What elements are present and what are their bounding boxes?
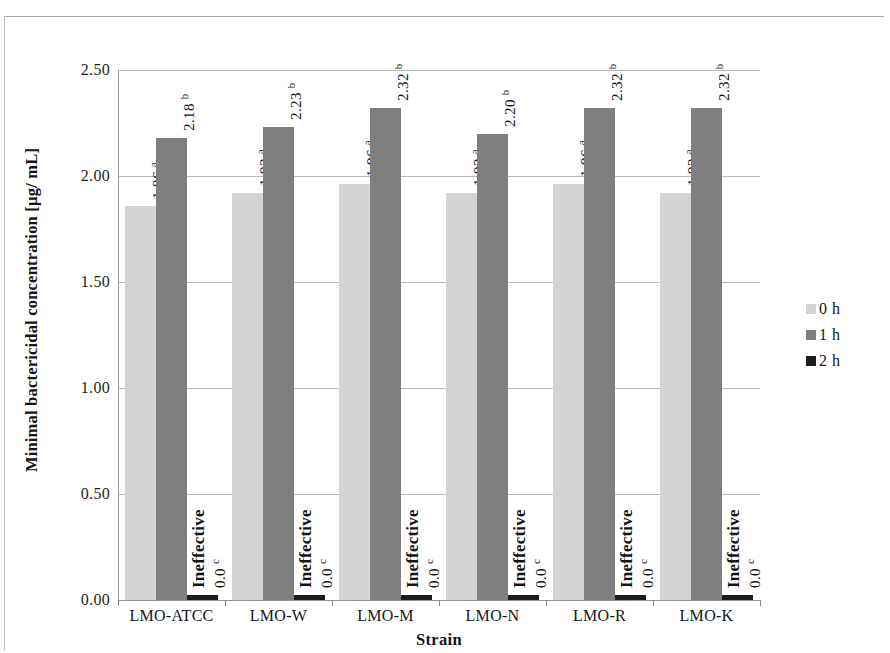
bar[interactable]: 2.32b xyxy=(584,108,615,600)
bar-value-label: 2.32b xyxy=(391,63,411,101)
bar-annotation: Ineffective xyxy=(512,509,527,588)
bar-group: 1.92a2.32b0.0cIneffective xyxy=(653,70,760,600)
bar-set: 1.92a2.23b0.0cIneffective xyxy=(225,70,332,600)
bar[interactable]: 1.96a xyxy=(553,184,584,600)
bar-set: 1.92a2.20b0.0cIneffective xyxy=(439,70,546,600)
x-tick-label: LMO-K xyxy=(653,606,760,632)
x-tick-mark xyxy=(760,600,761,606)
significance-letter: c xyxy=(423,559,435,568)
bar-group: 1.86a2.18b0.0cIneffective xyxy=(118,70,225,600)
bar[interactable]: 1.92a xyxy=(446,193,477,600)
bar-set: 1.96a2.32b0.0cIneffective xyxy=(332,70,439,600)
significance-letter: c xyxy=(744,559,756,568)
significance-letter: b xyxy=(285,82,297,92)
bar-set: 1.92a2.32b0.0cIneffective xyxy=(653,70,760,600)
x-axis-title: Strain xyxy=(118,630,760,650)
bar[interactable]: 1.92a xyxy=(660,193,691,600)
legend-label: 0 h xyxy=(819,301,841,317)
x-tick-label: LMO-ATCC xyxy=(118,606,225,632)
x-tick-label: LMO-N xyxy=(439,606,546,632)
y-tick-label: 0.00 xyxy=(50,592,110,608)
bar[interactable]: 2.32b xyxy=(691,108,722,600)
bar-value-label: 0.0c xyxy=(743,559,763,588)
bar-groups: 1.86a2.18b0.0cIneffective1.92a2.23b0.0cI… xyxy=(118,70,760,600)
bar-group: 1.96a2.32b0.0cIneffective xyxy=(546,70,653,600)
y-axis-title: Minimal bactericidal concentration [µg/ … xyxy=(22,50,42,570)
bar-value-label: 2.18b xyxy=(177,93,197,131)
y-tick-label: 2.50 xyxy=(50,62,110,78)
bar-set: 1.86a2.18b0.0cIneffective xyxy=(118,70,225,600)
bar-value-label: 2.20b xyxy=(498,89,518,127)
y-tick-label: 1.00 xyxy=(50,380,110,396)
significance-letter: b xyxy=(178,93,190,103)
bar-annotation: Ineffective xyxy=(298,509,313,588)
legend-item[interactable]: 0 h xyxy=(806,296,882,322)
significance-letter: c xyxy=(316,559,328,568)
x-axis-labels: LMO-ATCCLMO-WLMO-MLMO-NLMO-RLMO-K xyxy=(118,606,760,632)
legend-swatch-icon xyxy=(806,330,816,340)
y-axis-ticks: 0.000.501.001.502.002.50 xyxy=(40,70,110,600)
bar[interactable]: 0.0cIneffective xyxy=(294,595,325,600)
significance-letter: b xyxy=(713,63,725,73)
bar-annotation: Ineffective xyxy=(191,509,206,588)
bar-group: 1.92a2.23b0.0cIneffective xyxy=(225,70,332,600)
bar[interactable]: 1.92a xyxy=(232,193,263,600)
bar[interactable]: 0.0cIneffective xyxy=(401,595,432,600)
x-tick-label: LMO-W xyxy=(225,606,332,632)
significance-letter: b xyxy=(392,63,404,73)
bar-value-label: 2.23b xyxy=(284,82,304,120)
bar[interactable]: 2.32b xyxy=(370,108,401,600)
bar-group: 1.92a2.20b0.0cIneffective xyxy=(439,70,546,600)
y-tick-label: 2.00 xyxy=(50,168,110,184)
significance-letter: b xyxy=(606,63,618,73)
bar-annotation: Ineffective xyxy=(726,509,741,588)
bar[interactable]: 2.18b xyxy=(156,138,187,600)
legend-swatch-icon xyxy=(806,356,816,366)
bar-annotation: Ineffective xyxy=(405,509,420,588)
bar-set: 1.96a2.32b0.0cIneffective xyxy=(546,70,653,600)
legend-swatch-icon xyxy=(806,304,816,314)
bar[interactable]: 0.0cIneffective xyxy=(187,595,218,600)
legend-label: 1 h xyxy=(819,327,841,343)
y-tick-label: 0.50 xyxy=(50,486,110,502)
y-tick-label: 1.50 xyxy=(50,274,110,290)
significance-letter: c xyxy=(637,559,649,568)
chart-legend: 0 h1 h2 h xyxy=(806,296,882,374)
significance-letter: c xyxy=(530,559,542,568)
bar[interactable]: 0.0cIneffective xyxy=(615,595,646,600)
legend-label: 2 h xyxy=(819,353,841,369)
bar[interactable]: 0.0cIneffective xyxy=(722,595,753,600)
bar-value-label: 2.32b xyxy=(605,63,625,101)
bar[interactable]: 2.23b xyxy=(263,127,294,600)
legend-item[interactable]: 1 h xyxy=(806,322,882,348)
significance-letter: b xyxy=(499,89,511,99)
bar[interactable]: 2.20b xyxy=(477,134,508,600)
bar-group: 1.96a2.32b0.0cIneffective xyxy=(332,70,439,600)
significance-letter: c xyxy=(209,559,221,568)
bar[interactable]: 1.96a xyxy=(339,184,370,600)
bar[interactable]: 0.0cIneffective xyxy=(508,595,539,600)
bar-annotation: Ineffective xyxy=(619,509,634,588)
bar[interactable]: 1.86a xyxy=(125,206,156,600)
legend-item[interactable]: 2 h xyxy=(806,348,882,374)
x-tick-label: LMO-R xyxy=(546,606,653,632)
figure-container: Minimal bactericidal concentration [µg/ … xyxy=(0,0,890,653)
x-tick-label: LMO-M xyxy=(332,606,439,632)
bar-value-label: 2.32b xyxy=(712,63,732,101)
